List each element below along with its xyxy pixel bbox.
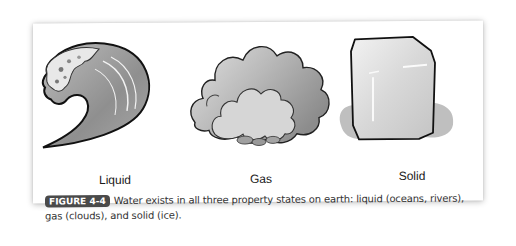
label-liquid: Liquid bbox=[75, 173, 155, 188]
ice-cube-icon bbox=[333, 33, 465, 159]
label-solid: Solid bbox=[372, 169, 452, 184]
figure-number-badge: FIGURE 4-4 bbox=[45, 195, 110, 207]
figure-caption: FIGURE 4-4Water exists in all three prop… bbox=[45, 190, 475, 223]
cloud-icon bbox=[185, 29, 335, 155]
figure-page: Liquid Gas Solid FIGURE 4-4Water exists … bbox=[33, 20, 483, 203]
wave-icon bbox=[35, 39, 167, 152]
label-gas: Gas bbox=[221, 172, 301, 187]
